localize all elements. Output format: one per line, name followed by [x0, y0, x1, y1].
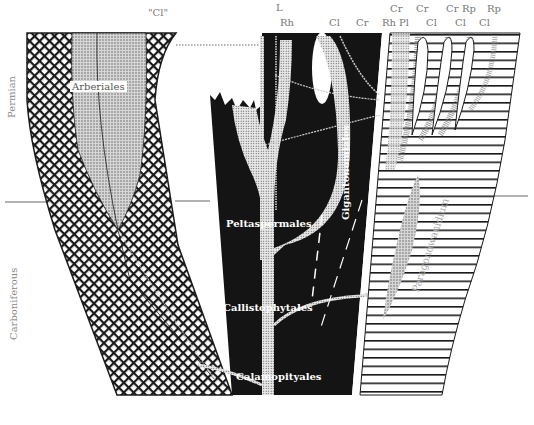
top-label: "Cl" [148, 7, 168, 18]
period-label-permian: Permian [6, 76, 17, 118]
top-label: Cl [455, 17, 466, 28]
top-label: Cr [390, 3, 402, 14]
top-label: Cl [479, 17, 490, 28]
top-label: Rp [487, 3, 501, 14]
label-peltaspermales: Peltaspermales [226, 218, 312, 229]
label-gigantonomiales: Gigantonomiales [340, 125, 351, 220]
label-calamopityales: Calamopityales [236, 371, 321, 382]
top-label: Cl [426, 17, 437, 28]
top-label: Cr [416, 3, 428, 14]
top-label: Rh [280, 17, 294, 28]
top-label: Cr [446, 3, 458, 14]
label-arberiales: Arberiales [70, 81, 127, 92]
top-label: Cl [329, 17, 340, 28]
period-label-carboniferous: Carboniferous [8, 268, 19, 340]
top-label: Cr [356, 17, 368, 28]
top-label: Pl [399, 17, 409, 28]
top-label: Rp [462, 3, 476, 14]
label-callistophytales: Callistophytales [223, 302, 313, 313]
top-label: L [276, 2, 283, 13]
pteridosperm-black-block [210, 33, 382, 395]
phylogeny-diagram [0, 0, 534, 425]
top-label: Rh [382, 17, 396, 28]
